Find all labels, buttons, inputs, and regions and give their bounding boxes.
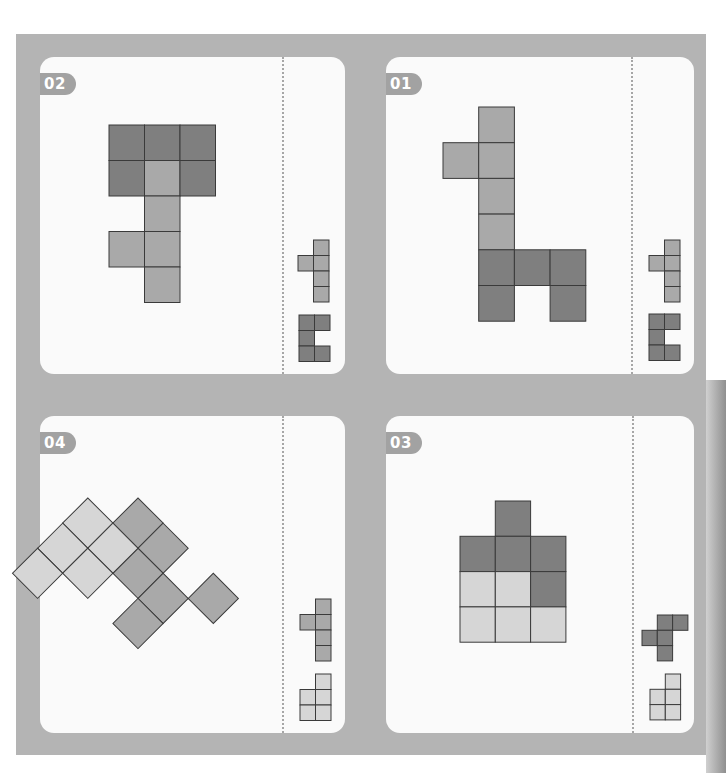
- piece-cell[interactable]: [665, 689, 680, 704]
- target-cell: [145, 232, 181, 268]
- piece-03-2[interactable]: [650, 674, 681, 720]
- piece-cell[interactable]: [665, 240, 681, 256]
- target-cell: [495, 536, 530, 571]
- piece-cell[interactable]: [314, 256, 330, 272]
- piece-cell[interactable]: [642, 630, 657, 645]
- piece-cell[interactable]: [314, 271, 330, 287]
- target-cell: [145, 196, 181, 232]
- target-cell: [479, 214, 515, 250]
- target-cell: [180, 161, 216, 197]
- target-cell: [109, 232, 145, 268]
- piece-cell[interactable]: [300, 690, 316, 706]
- piece-cell[interactable]: [649, 256, 665, 272]
- piece-01-1[interactable]: [649, 240, 680, 302]
- target-cell: [145, 125, 181, 161]
- target-shape-02: [109, 125, 216, 303]
- piece-cell[interactable]: [665, 705, 680, 720]
- piece-cell[interactable]: [316, 615, 332, 631]
- piece-cell[interactable]: [665, 345, 681, 361]
- target-cell: [188, 573, 238, 623]
- piece-cell[interactable]: [316, 705, 332, 721]
- target-cell: [550, 250, 586, 286]
- target-cell: [443, 143, 479, 179]
- piece-cell[interactable]: [650, 689, 665, 704]
- piece-cell[interactable]: [665, 287, 681, 303]
- target-cell: [145, 161, 181, 197]
- piece-cell[interactable]: [665, 256, 681, 272]
- target-cell: [495, 607, 530, 642]
- piece-02-2[interactable]: [299, 315, 330, 362]
- target-cell: [460, 572, 495, 607]
- puzzle-shapes-layer: [0, 0, 726, 773]
- piece-cell[interactable]: [299, 315, 315, 331]
- target-cell: [531, 607, 566, 642]
- target-cell: [460, 607, 495, 642]
- target-cell: [109, 161, 145, 197]
- target-shape-03: [460, 501, 566, 642]
- piece-cell[interactable]: [316, 690, 332, 706]
- target-cell: [479, 178, 515, 214]
- target-cell: [479, 286, 515, 322]
- target-cell: [479, 107, 515, 143]
- target-cell: [109, 125, 145, 161]
- piece-cell[interactable]: [315, 346, 331, 362]
- piece-cell[interactable]: [298, 256, 314, 272]
- piece-cell[interactable]: [314, 240, 330, 256]
- piece-cell[interactable]: [649, 314, 665, 330]
- piece-cell[interactable]: [299, 346, 315, 362]
- piece-cell[interactable]: [657, 630, 672, 645]
- piece-cell[interactable]: [657, 615, 672, 630]
- target-cell: [495, 501, 530, 536]
- piece-cell[interactable]: [665, 314, 681, 330]
- target-cell: [180, 125, 216, 161]
- piece-cell[interactable]: [649, 345, 665, 361]
- piece-cell[interactable]: [665, 674, 680, 689]
- piece-cell[interactable]: [316, 674, 332, 690]
- piece-cell[interactable]: [316, 599, 332, 615]
- piece-cell[interactable]: [665, 271, 681, 287]
- target-cell: [550, 286, 586, 322]
- piece-cell[interactable]: [316, 630, 332, 646]
- target-cell: [514, 250, 550, 286]
- piece-cell[interactable]: [299, 331, 315, 347]
- target-cell: [495, 572, 530, 607]
- piece-03-1[interactable]: [642, 615, 688, 661]
- piece-cell[interactable]: [673, 615, 688, 630]
- piece-01-2[interactable]: [649, 314, 680, 361]
- target-shape-04: [12, 473, 238, 699]
- piece-cell[interactable]: [300, 705, 316, 721]
- piece-04-1[interactable]: [300, 599, 331, 661]
- target-cell: [479, 250, 515, 286]
- piece-cell[interactable]: [315, 315, 331, 331]
- piece-cell[interactable]: [316, 646, 332, 662]
- piece-cell[interactable]: [649, 330, 665, 346]
- target-cell: [145, 267, 181, 303]
- piece-cell[interactable]: [650, 705, 665, 720]
- target-cell: [460, 536, 495, 571]
- target-cell: [479, 143, 515, 179]
- piece-02-1[interactable]: [298, 240, 329, 302]
- target-cell: [531, 572, 566, 607]
- piece-cell[interactable]: [314, 287, 330, 303]
- piece-04-2[interactable]: [300, 674, 331, 721]
- target-cell: [531, 536, 566, 571]
- target-shape-01: [443, 107, 586, 321]
- piece-cell[interactable]: [657, 646, 672, 661]
- piece-cell[interactable]: [300, 615, 316, 631]
